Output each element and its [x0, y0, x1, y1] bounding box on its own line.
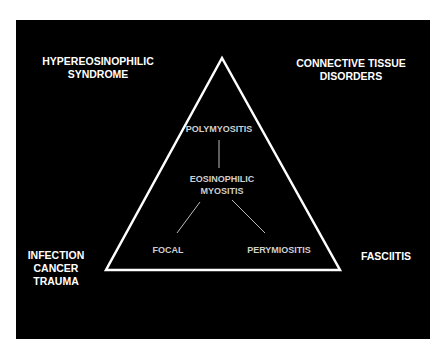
label-fasciitis: FASCIITIS — [361, 250, 411, 263]
label-connective-tissue-disorders: CONNECTIVE TISSUE DISORDERS — [296, 57, 406, 83]
connector-focal — [177, 202, 200, 233]
label-polymyositis: POLYMYOSITIS — [186, 123, 253, 135]
connector-perymiositis — [232, 200, 265, 233]
outer-triangle — [106, 58, 340, 270]
label-eosinophilic-myositis: EOSINOPHILIC MYOSITIS — [190, 173, 255, 197]
label-infection-cancer-trauma: INFECTION CANCER TRAUMA — [28, 249, 85, 288]
label-hypereosinophilic-syndrome: HYPEREOSINOPHILIC SYNDROME — [42, 55, 153, 81]
label-perymiositis: PERYMIOSITIS — [247, 244, 311, 256]
label-focal: FOCAL — [153, 244, 184, 256]
